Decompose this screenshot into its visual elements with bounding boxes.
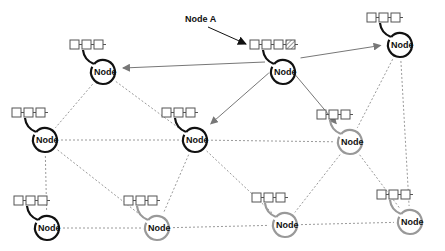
blockchain-icon (162, 108, 198, 117)
block-icon (389, 190, 398, 199)
block-icon (329, 110, 338, 119)
block-icon (94, 40, 103, 49)
block-icon (379, 13, 388, 22)
network-node-n8[interactable]: Node (124, 196, 171, 240)
block-icon (250, 40, 259, 49)
block-icon (38, 196, 47, 205)
blockchain-icon (317, 110, 353, 119)
network-node-n4[interactable]: Node (12, 108, 59, 152)
block-icon (82, 40, 91, 49)
block-icon (70, 40, 79, 49)
block-icon (124, 196, 133, 205)
broadcast-arrow-n1 (123, 62, 265, 68)
broadcast-arrow-n3 (301, 45, 381, 57)
node-a-label: Node A (185, 14, 217, 24)
blockchain-icon (252, 193, 288, 202)
network-node-n9[interactable]: Node (252, 193, 299, 237)
chain-link-icon (380, 23, 391, 37)
dashed-edge-n3-n10 (401, 61, 409, 206)
dashed-edge-n3-n6 (357, 59, 392, 128)
chain-link-icon (25, 118, 36, 132)
network-node-n1[interactable]: Node (70, 40, 117, 84)
blockchain-icon (367, 13, 403, 22)
dashed-edge-n1-n5 (116, 82, 182, 131)
block-icon (401, 190, 410, 199)
blockchain-icon (12, 108, 48, 117)
chain-link-icon (175, 118, 186, 132)
network-node-n3[interactable]: Node (367, 13, 414, 57)
dashed-edge-n5-n8 (163, 155, 188, 214)
block-icon (136, 196, 145, 205)
node-label: Node (148, 223, 171, 233)
block-icon (186, 108, 195, 117)
network-node-n6[interactable]: Node (317, 110, 364, 154)
node-label: Node (186, 135, 209, 145)
pending-block-icon (286, 40, 295, 49)
node-label: Node (341, 137, 364, 147)
p2p-network-diagram: NodeNodeNodeNodeNodeNodeNodeNodeNodeNode… (0, 0, 445, 251)
block-icon (367, 13, 376, 22)
dashed-edge-n9-n10 (301, 222, 394, 224)
dashed-edge-n1-n4 (55, 84, 92, 128)
node-label: Node (401, 217, 424, 227)
network-node-n10[interactable]: Node (377, 190, 424, 234)
blockchain-icon (124, 196, 160, 205)
block-icon (264, 193, 273, 202)
network-node-n5[interactable]: Node (162, 108, 209, 152)
block-icon (26, 196, 35, 205)
chain-link-icon (265, 203, 276, 217)
dashed-edge-n6-n10 (360, 155, 401, 209)
block-icon (36, 108, 45, 117)
block-icon (14, 196, 23, 205)
node-label: Node (38, 223, 61, 233)
node-label: Node (391, 40, 414, 50)
block-icon (148, 196, 157, 205)
block-icon (274, 40, 283, 49)
block-icon (162, 108, 171, 117)
block-icon (377, 190, 386, 199)
node-label: Node (94, 67, 117, 77)
node-a-annotation: Node A (185, 14, 246, 44)
chain-link-icon (83, 50, 94, 64)
blockchain-icon (377, 190, 413, 199)
node-label: Node (36, 135, 59, 145)
block-icon (252, 193, 261, 202)
node-label: Node (274, 67, 297, 77)
block-icon (174, 108, 183, 117)
chain-link-icon (137, 206, 148, 220)
chain-link-icon (27, 206, 38, 220)
block-icon (341, 110, 350, 119)
node-label: Node (276, 220, 299, 230)
dashed-edge-n5-n6 (211, 140, 334, 142)
node-a-pointer-arrow (208, 27, 246, 44)
dashed-edge-n4-n8 (58, 150, 145, 218)
block-icon (12, 108, 21, 117)
edges-layer: NodeNodeNodeNodeNodeNodeNodeNodeNodeNode… (0, 0, 445, 251)
block-icon (317, 110, 326, 119)
blockchain-icon (14, 196, 50, 205)
block-icon (391, 13, 400, 22)
nodes-layer: NodeNodeNodeNodeNodeNodeNodeNodeNodeNode (12, 13, 424, 240)
network-node-n7[interactable]: Node (14, 196, 61, 240)
broadcast-arrow-n5 (211, 73, 269, 124)
block-icon (276, 193, 285, 202)
dashed-edge-n5-n9 (207, 151, 274, 214)
blockchain-icon (70, 40, 106, 49)
block-icon (24, 108, 33, 117)
dashed-edge-n8-n9 (173, 225, 269, 227)
block-icon (262, 40, 271, 49)
blockchain-icon (250, 40, 298, 49)
dashed-edge-n6-n9 (295, 155, 340, 213)
